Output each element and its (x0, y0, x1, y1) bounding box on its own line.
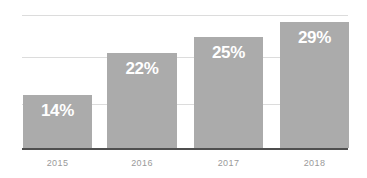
bar-2018[interactable]: 29% (280, 22, 349, 148)
x-axis-line (22, 148, 348, 150)
bar-2016[interactable]: 22% (107, 53, 177, 148)
x-tick-label-2015: 2015 (23, 157, 92, 169)
bar-value-label: 14% (23, 101, 92, 120)
bar-value-label: 29% (280, 28, 349, 47)
bar-chart: 14% 22% 25% 29% 2015 2016 2017 2018 (0, 0, 367, 178)
x-tick-label-2016: 2016 (107, 157, 177, 169)
bar-2015[interactable]: 14% (23, 95, 92, 148)
bar-value-label: 25% (194, 43, 263, 62)
plot-area: 14% 22% 25% 29% 2015 2016 2017 2018 (0, 0, 367, 178)
x-tick-label-2017: 2017 (194, 157, 263, 169)
gridline-top (22, 15, 348, 16)
bar-2017[interactable]: 25% (194, 37, 263, 148)
bar-value-label: 22% (107, 59, 177, 78)
x-tick-label-2018: 2018 (280, 157, 349, 169)
